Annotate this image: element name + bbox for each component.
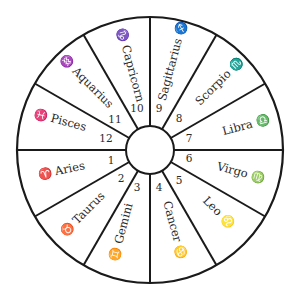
- sign-label-gemini: ♊ Gemini: [107, 201, 136, 262]
- zodiac-wheel: 1 2 3 4 5 6 7 8 9 10 11 12 ♈ Aries ♉ Tau…: [0, 0, 298, 294]
- center-hub: [126, 126, 174, 174]
- house-number-8: 8: [176, 112, 183, 124]
- sign-label-taurus: ♉ Taurus: [57, 189, 108, 240]
- house-number-12: 12: [99, 132, 112, 144]
- house-number-9: 9: [156, 102, 163, 114]
- house-number-7: 7: [186, 132, 193, 144]
- sign-label-leo: Leo ♌: [200, 193, 237, 230]
- house-number-4: 4: [156, 181, 163, 193]
- house-number-2: 2: [118, 172, 125, 184]
- house-number-3: 3: [134, 181, 141, 193]
- house-number-6: 6: [186, 152, 193, 164]
- house-number-10: 10: [130, 102, 143, 114]
- house-number-1: 1: [108, 154, 115, 166]
- sign-label-cancer: Cancer ♋: [160, 199, 189, 260]
- sign-label-libra: Libra ♎: [221, 112, 272, 138]
- sign-label-virgo: Virgo ♍: [214, 159, 266, 186]
- sign-label-capricorn: ♑ Capricorn: [114, 26, 147, 104]
- house-number-11: 11: [108, 113, 121, 125]
- house-number-5: 5: [176, 174, 183, 186]
- sign-label-aries: ♈ Aries: [36, 158, 86, 182]
